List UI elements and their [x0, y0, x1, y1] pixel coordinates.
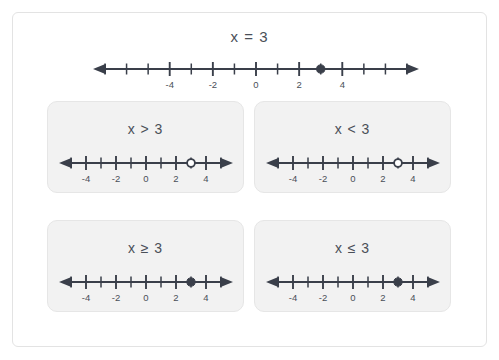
number-line-svg: -4-2024 — [91, 56, 421, 90]
tick-label: 0 — [350, 173, 355, 184]
tick-label: 4 — [410, 173, 415, 184]
tick-label: 2 — [173, 173, 178, 184]
tick-label: -2 — [318, 292, 326, 303]
tick-label: -4 — [165, 79, 173, 90]
tick-label: 0 — [350, 292, 355, 303]
tick-label: -2 — [111, 292, 119, 303]
left-arrowhead — [266, 158, 279, 168]
tick-label: 0 — [253, 79, 258, 90]
closed-point-marker — [317, 65, 325, 73]
right-arrowhead — [427, 158, 440, 168]
number-line-less-than: -4-2024 — [264, 150, 442, 184]
tick-label: 4 — [410, 292, 415, 303]
closed-point-marker — [393, 278, 401, 286]
right-arrowhead — [220, 277, 233, 287]
closed-point-marker — [186, 278, 194, 286]
card-less-than[interactable]: x < 3 -4-2024 — [254, 101, 451, 193]
card-greater-or-equal[interactable]: x ≥ 3 -4-2024 — [47, 220, 244, 312]
card-label-greater-or-equal: x ≥ 3 — [48, 240, 243, 256]
worksheet-canvas: x = 3 -4-2024 x > 3 -4-2024 x < 3 -4-202… — [0, 0, 499, 360]
left-arrowhead — [93, 64, 106, 74]
tick-label: -4 — [288, 292, 296, 303]
tick-label: 4 — [340, 79, 345, 90]
card-label-greater-than: x > 3 — [48, 121, 243, 137]
number-line-greater-than: -4-2024 — [57, 150, 235, 184]
tick-label: -4 — [81, 173, 89, 184]
tick-label: -2 — [318, 173, 326, 184]
number-line-less-or-equal: -4-2024 — [264, 269, 442, 303]
tick-label: 0 — [143, 173, 148, 184]
number-line-svg: -4-2024 — [57, 150, 235, 184]
open-point-marker — [187, 159, 195, 167]
left-arrowhead — [59, 158, 72, 168]
tick-label: -2 — [111, 173, 119, 184]
header-block: x = 3 -4-2024 — [12, 12, 487, 90]
card-label-less-than: x < 3 — [255, 121, 450, 137]
open-point-marker — [394, 159, 402, 167]
header-equation-label: x = 3 — [12, 28, 487, 45]
tick-label: 2 — [173, 292, 178, 303]
number-line-svg: -4-2024 — [264, 150, 442, 184]
left-arrowhead — [59, 277, 72, 287]
tick-label: 2 — [380, 173, 385, 184]
tick-label: 4 — [203, 292, 208, 303]
tick-label: 0 — [143, 292, 148, 303]
tick-label: 4 — [203, 173, 208, 184]
right-arrowhead — [220, 158, 233, 168]
tick-label: -4 — [81, 292, 89, 303]
right-arrowhead — [406, 64, 419, 74]
card-less-or-equal[interactable]: x ≤ 3 -4-2024 — [254, 220, 451, 312]
number-line-svg: -4-2024 — [57, 269, 235, 303]
header-number-line: -4-2024 — [91, 56, 421, 90]
number-line-greater-or-equal: -4-2024 — [57, 269, 235, 303]
tick-label: 2 — [296, 79, 301, 90]
card-greater-than[interactable]: x > 3 -4-2024 — [47, 101, 244, 193]
tick-label: -4 — [288, 173, 296, 184]
number-line-svg: -4-2024 — [264, 269, 442, 303]
left-arrowhead — [266, 277, 279, 287]
tick-label: 2 — [380, 292, 385, 303]
tick-label: -2 — [209, 79, 217, 90]
card-label-less-or-equal: x ≤ 3 — [255, 240, 450, 256]
right-arrowhead — [427, 277, 440, 287]
